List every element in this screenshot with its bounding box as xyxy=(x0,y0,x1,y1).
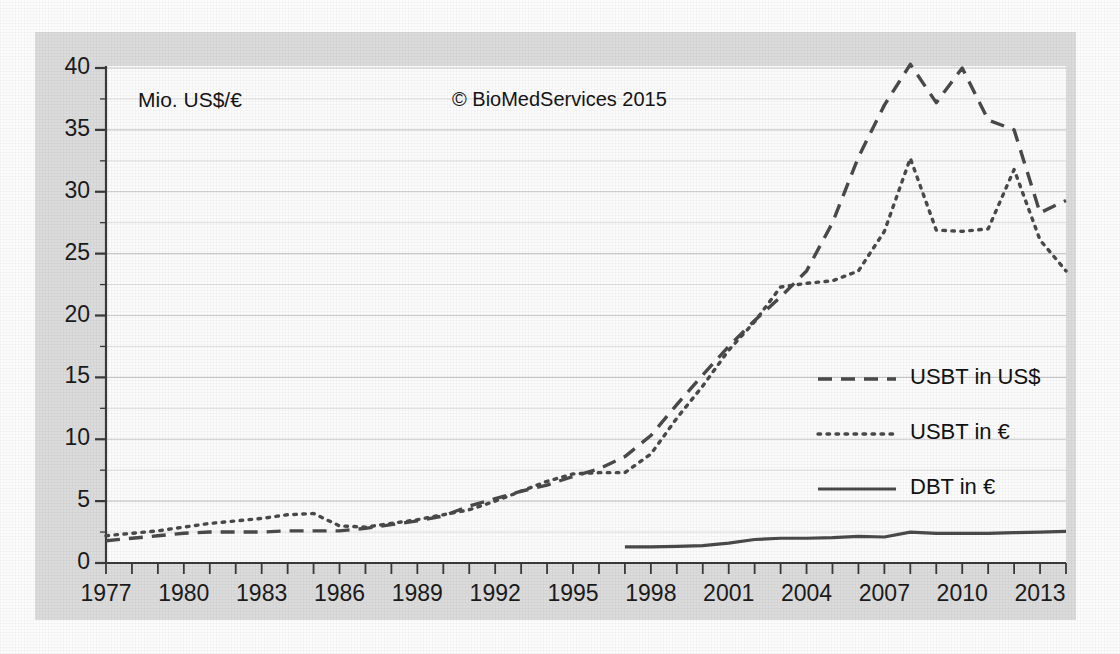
figure-page: Mio. US$/€ © BioMedServices 2015 0510152… xyxy=(0,0,1120,654)
y-tick-label: 40 xyxy=(30,53,90,80)
series-line-usbt-in-us xyxy=(106,64,1066,540)
y-tick-label: 10 xyxy=(30,424,90,451)
x-tick-label: 1983 xyxy=(217,580,307,607)
x-tick-label: 2010 xyxy=(917,580,1007,607)
y-tick-label: 35 xyxy=(30,115,90,142)
axis-unit-caption: Mio. US$/€ xyxy=(138,88,242,112)
x-tick-label: 1998 xyxy=(606,580,696,607)
legend-item-label: USBT in US$ xyxy=(910,364,1040,390)
x-tick-label: 1992 xyxy=(450,580,540,607)
x-tick-label: 2004 xyxy=(762,580,852,607)
y-tick-label: 5 xyxy=(30,486,90,513)
legend-item-label: USBT in € xyxy=(910,419,1010,445)
x-tick-label: 1977 xyxy=(61,580,151,607)
y-tick-label: 25 xyxy=(30,239,90,266)
copyright-label: © BioMedServices 2015 xyxy=(452,88,667,111)
x-tick-label: 1986 xyxy=(295,580,385,607)
y-tick-label: 20 xyxy=(30,301,90,328)
x-tick-label: 1980 xyxy=(139,580,229,607)
x-tick-label: 2001 xyxy=(684,580,774,607)
x-tick-label: 1989 xyxy=(372,580,462,607)
x-tick-label: 2013 xyxy=(995,580,1085,607)
x-tick-label: 2007 xyxy=(839,580,929,607)
legend-item-label: DBT in € xyxy=(910,474,995,500)
y-tick-label: 0 xyxy=(30,548,90,575)
y-tick-label: 15 xyxy=(30,362,90,389)
x-tick-label: 1995 xyxy=(528,580,618,607)
y-tick-label: 30 xyxy=(30,177,90,204)
series-line-dbt-in xyxy=(625,531,1066,546)
